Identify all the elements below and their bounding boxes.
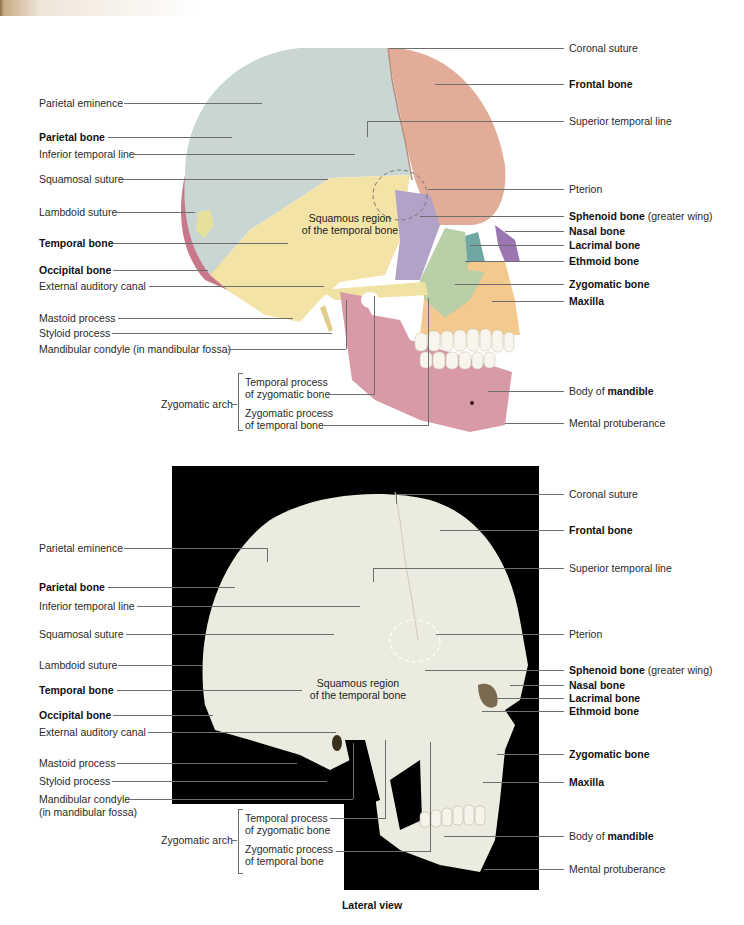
- label-bold-part: mandible: [608, 830, 654, 842]
- leader-line: [112, 781, 327, 782]
- leader-line: [232, 840, 237, 841]
- label-nasal-bone: Nasal bone: [569, 679, 625, 691]
- leader-line: [484, 869, 564, 870]
- label-occipital-bone: Occipital bone: [39, 709, 111, 721]
- leader-line: [124, 548, 267, 549]
- label-frontal-bone: Frontal bone: [569, 524, 633, 536]
- label-coronal-suture: Coronal suture: [569, 488, 638, 500]
- leader-line: [118, 665, 203, 666]
- label-ethmoid-bone: Ethmoid bone: [569, 705, 639, 717]
- leader-line: [130, 799, 353, 800]
- label-zygomatic-arch: Zygomatic arch: [161, 834, 233, 846]
- leader-line: [492, 698, 564, 699]
- label-mental-protuberance: Mental protuberance: [569, 863, 665, 875]
- label-external-auditory-canal: External auditory canal: [39, 726, 146, 738]
- leader-line: [126, 634, 334, 635]
- label-mandibular-fossa-note: (in mandibular fossa): [39, 806, 137, 818]
- zygomatic-arch-bracket: [238, 809, 243, 874]
- label-zygomatic-process-temporal: Zygomatic process of temporal bone: [245, 843, 333, 867]
- label-inferior-temporal-line: Inferior temporal line: [39, 600, 135, 612]
- photo-skull: [0, 0, 744, 925]
- label-prefix: Body of: [569, 830, 608, 842]
- leader-line: [330, 818, 385, 819]
- leader-line: [113, 715, 213, 716]
- label-suffix: (greater wing): [645, 664, 713, 676]
- leader-line: [396, 494, 564, 495]
- leader-line: [440, 530, 564, 531]
- label-mastoid-process: Mastoid process: [39, 757, 115, 769]
- label-pterion: Pterion: [569, 628, 602, 640]
- leader-line: [385, 740, 386, 819]
- inner-label-line: of the temporal bone: [303, 689, 413, 701]
- label-parietal-bone: Parietal bone: [39, 581, 105, 593]
- leader-line: [117, 690, 302, 691]
- label-body-of-mandible: Body of mandible: [569, 830, 654, 842]
- squamous-region-label-bottom: Squamous region of the temporal bone: [303, 677, 413, 701]
- leader-line: [497, 754, 564, 755]
- label-line: Temporal process: [245, 812, 330, 824]
- label-zygomatic-bone: Zygomatic bone: [569, 748, 650, 760]
- leader-line: [117, 763, 297, 764]
- label-lambdoid-suture: Lambdoid suture: [39, 659, 117, 671]
- leader-line: [137, 606, 360, 607]
- leader-line: [373, 568, 564, 569]
- label-styloid-process: Styloid process: [39, 775, 110, 787]
- leader-line: [336, 851, 430, 852]
- leader-line: [444, 836, 564, 837]
- label-bold-part: Sphenoid bone: [569, 664, 645, 676]
- label-line: of zygomatic bone: [245, 824, 330, 836]
- leader-line: [108, 587, 235, 588]
- leader-line: [373, 568, 374, 582]
- label-sphenoid-bone: Sphenoid bone (greater wing): [569, 664, 713, 676]
- label-line: Zygomatic process: [245, 843, 333, 855]
- label-temporal-bone: Temporal bone: [39, 684, 113, 696]
- leader-line: [353, 743, 354, 799]
- leader-line: [436, 634, 564, 635]
- leader-line: [148, 732, 336, 733]
- label-mandibular-condyle: Mandibular condyle: [39, 793, 130, 805]
- label-superior-temporal-line: Superior temporal line: [569, 562, 672, 574]
- label-parietal-eminence: Parietal eminence: [39, 542, 123, 554]
- leader-line: [483, 782, 564, 783]
- inner-label-line: Squamous region: [303, 677, 413, 689]
- leader-line: [267, 548, 268, 562]
- label-maxilla: Maxilla: [569, 776, 604, 788]
- leader-line: [396, 494, 397, 504]
- leader-line: [430, 742, 431, 852]
- leader-line: [482, 711, 564, 712]
- label-lacrimal-bone: Lacrimal bone: [569, 692, 640, 704]
- leader-line: [425, 670, 564, 671]
- figure-caption: Lateral view: [0, 899, 744, 911]
- leader-line: [510, 685, 564, 686]
- label-line: of temporal bone: [245, 855, 333, 867]
- label-squamosal-suture: Squamosal suture: [39, 628, 124, 640]
- label-temporal-process-zygomatic: Temporal process of zygomatic bone: [245, 812, 330, 836]
